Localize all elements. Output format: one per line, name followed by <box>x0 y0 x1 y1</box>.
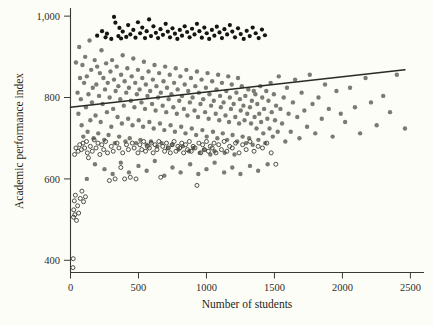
data-point <box>273 118 277 122</box>
data-point <box>214 112 218 116</box>
data-point <box>186 89 190 93</box>
data-point <box>274 103 278 107</box>
data-point <box>126 116 130 120</box>
data-point <box>158 27 162 31</box>
data-point <box>339 112 343 116</box>
data-point <box>93 162 97 166</box>
data-point <box>305 125 309 129</box>
data-point <box>242 118 246 122</box>
data-point <box>239 108 243 112</box>
data-point <box>78 76 82 80</box>
data-point <box>227 120 231 124</box>
data-point <box>233 35 237 39</box>
data-point <box>93 113 97 117</box>
data-point <box>124 35 128 39</box>
data-point <box>83 55 87 59</box>
data-point <box>128 136 132 140</box>
data-point <box>105 32 109 36</box>
data-point <box>272 92 276 96</box>
data-point <box>127 170 131 174</box>
data-point <box>110 172 114 176</box>
data-point <box>177 99 181 103</box>
data-point <box>232 152 236 156</box>
data-point <box>117 26 121 30</box>
data-point <box>204 86 208 90</box>
data-point <box>183 131 187 135</box>
data-point <box>203 110 207 114</box>
data-point <box>228 23 232 27</box>
data-point <box>128 32 132 36</box>
data-point <box>170 165 174 169</box>
data-point <box>174 66 178 70</box>
data-point <box>112 15 116 19</box>
data-point <box>220 81 224 85</box>
data-point <box>195 22 199 26</box>
data-point <box>153 159 157 163</box>
data-point <box>153 108 157 112</box>
data-point <box>190 95 194 99</box>
data-point <box>105 110 109 114</box>
data-point <box>196 172 200 176</box>
data-point <box>210 79 214 83</box>
data-point <box>237 121 241 125</box>
data-point <box>168 35 172 39</box>
data-point <box>320 116 324 120</box>
data-point <box>97 94 101 98</box>
data-point <box>248 164 252 168</box>
x-tick-label: 0 <box>68 282 73 293</box>
y-axis-title: Academic performance index <box>13 73 26 209</box>
data-point <box>221 131 225 135</box>
data-point <box>111 107 115 111</box>
data-point <box>261 131 265 135</box>
data-point <box>140 76 144 80</box>
data-point <box>82 81 86 85</box>
data-point <box>190 126 194 130</box>
data-point <box>151 77 155 81</box>
data-point <box>168 73 172 77</box>
data-point <box>184 68 188 72</box>
data-point <box>85 177 89 181</box>
data-point <box>221 100 225 104</box>
data-point <box>166 30 170 34</box>
data-point <box>281 95 285 99</box>
data-point <box>215 25 219 29</box>
data-point <box>236 26 240 30</box>
data-point <box>257 36 261 40</box>
data-point <box>250 99 254 103</box>
data-point <box>313 131 317 135</box>
data-point <box>131 28 135 32</box>
data-point <box>310 102 314 106</box>
data-point <box>122 103 126 107</box>
data-point <box>79 97 83 101</box>
data-point <box>198 102 202 106</box>
data-point <box>238 172 242 176</box>
data-point <box>110 58 114 62</box>
data-point <box>119 36 123 40</box>
data-point <box>229 107 233 111</box>
data-point <box>161 79 165 83</box>
data-point <box>113 89 117 93</box>
data-point <box>101 76 105 80</box>
data-point <box>133 36 137 40</box>
data-point <box>278 107 282 111</box>
data-point <box>241 103 245 107</box>
data-point <box>217 118 221 122</box>
data-point <box>291 100 295 104</box>
data-point <box>222 27 226 31</box>
data-point <box>265 162 269 166</box>
data-point <box>202 25 206 29</box>
data-point <box>137 118 141 122</box>
data-point <box>151 24 155 28</box>
data-point <box>160 103 164 107</box>
data-point <box>107 95 111 99</box>
data-point <box>127 86 131 90</box>
data-point <box>228 95 232 99</box>
data-point <box>271 134 275 138</box>
data-point <box>159 90 163 94</box>
data-point <box>297 136 301 140</box>
data-point <box>212 99 216 103</box>
data-point <box>115 64 119 68</box>
data-point <box>264 89 268 93</box>
data-point <box>245 112 249 116</box>
data-point <box>201 97 205 101</box>
